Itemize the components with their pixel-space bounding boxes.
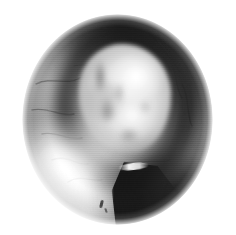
- endoscope-field-of-view: [22, 14, 213, 225]
- image-canvas: Otoendoscopic view: [0, 0, 236, 235]
